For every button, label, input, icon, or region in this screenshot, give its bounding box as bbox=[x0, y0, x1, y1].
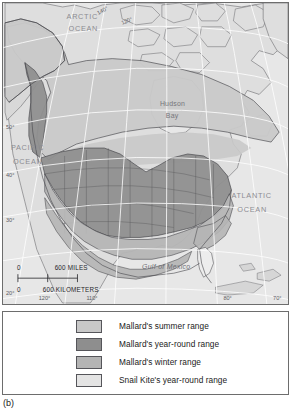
scale-miles-zero: 0 bbox=[17, 264, 21, 271]
figure-container: ARCTIC OCEAN PACIFIC OCEAN ATLANTIC OCEA… bbox=[0, 0, 291, 416]
legend-item-summer-range: Mallard's summer range bbox=[3, 317, 288, 335]
lon-label-bottom-80: 80° bbox=[223, 295, 231, 301]
figure-caption: (b) bbox=[3, 398, 14, 408]
hudson-bay-line2: Bay bbox=[166, 112, 179, 120]
legend-label-summer-range: Mallard's summer range bbox=[119, 321, 209, 331]
lon-label-bottom-120: 120° bbox=[39, 295, 50, 301]
atlantic-ocean-line2: OCEAN bbox=[237, 205, 267, 214]
legend-label-winter-range: Mallard's winter range bbox=[119, 357, 201, 367]
legend-swatch-snail-kite-range bbox=[76, 374, 102, 387]
lon-label-bottom-110: 110° bbox=[86, 295, 97, 301]
arctic-ocean-line2: OCEAN bbox=[69, 24, 99, 33]
map-panel: ARCTIC OCEAN PACIFIC OCEAN ATLANTIC OCEA… bbox=[2, 2, 289, 305]
pacific-ocean-line1: PACIFIC bbox=[11, 143, 44, 152]
lon-label-bottom-70: 70° bbox=[273, 295, 281, 301]
legend-label-snail-kite-range: Snail Kite's year-round range bbox=[119, 375, 227, 385]
lat-label-30: 30° bbox=[6, 217, 14, 223]
lat-label-20: 20° bbox=[6, 290, 14, 296]
legend-swatch-summer-range bbox=[76, 320, 102, 333]
scale-miles-value: 600 MILES bbox=[55, 264, 88, 271]
lat-label-40: 40° bbox=[6, 172, 14, 178]
legend-item-year-round-range: Mallard's year-round range bbox=[3, 335, 288, 353]
map-legend: Mallard's summer range Mallard's year-ro… bbox=[2, 311, 289, 395]
arctic-ocean-line1: ARCTIC bbox=[67, 12, 98, 21]
scale-km-value: 600 KILOMETERS bbox=[43, 286, 99, 293]
scale-km-zero: 0 bbox=[17, 286, 21, 293]
legend-item-winter-range: Mallard's winter range bbox=[3, 353, 288, 371]
map-svg: ARCTIC OCEAN PACIFIC OCEAN ATLANTIC OCEA… bbox=[3, 3, 288, 304]
pacific-ocean-line2: OCEAN bbox=[13, 157, 43, 166]
legend-item-snail-kite-range: Snail Kite's year-round range bbox=[3, 371, 288, 389]
label-gulf-of-mexico: Gulf of Mexico bbox=[142, 263, 191, 270]
legend-swatch-year-round-range bbox=[76, 338, 102, 351]
lat-label-50: 50° bbox=[6, 124, 14, 130]
legend-label-year-round-range: Mallard's year-round range bbox=[119, 339, 219, 349]
atlantic-ocean-line1: ATLANTIC bbox=[231, 191, 271, 200]
hudson-bay-line1: Hudson bbox=[160, 100, 185, 107]
legend-swatch-winter-range bbox=[76, 356, 102, 369]
